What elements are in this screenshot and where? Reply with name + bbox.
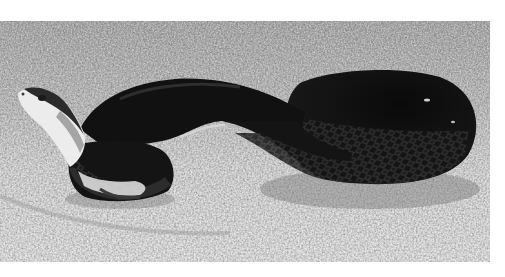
photo-canvas [0, 21, 490, 262]
snake-neck-loop [69, 141, 174, 202]
snake-photograph [0, 21, 490, 262]
